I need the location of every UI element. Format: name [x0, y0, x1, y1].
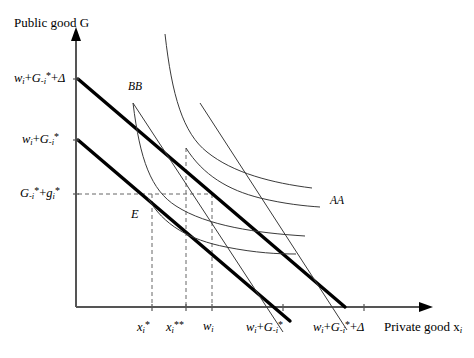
point-label-E: E: [131, 208, 139, 221]
ytick-label-3: G-i*+gi*: [20, 186, 60, 201]
guide-lines-group: [78, 148, 212, 307]
curve-BB-lower-arc: [186, 148, 320, 207]
expansion-line-left: [133, 103, 283, 332]
axis-group: [71, 27, 433, 312]
economics-diagram: Public good G Private good xi wi+G-i*+Δ …: [0, 0, 474, 358]
curve-AA: [133, 103, 305, 236]
y-axis-title: Public good G: [14, 16, 89, 29]
x-axis-title: Private good xi: [384, 320, 462, 335]
ytick-label-1: wi+G-i*+Δ: [14, 71, 65, 86]
expansion-line-right: [200, 103, 347, 330]
y-axis-title-text: Public good G: [14, 15, 89, 30]
xtick-label-5: wi+G-i*+Δ: [313, 320, 364, 335]
xtick-label-4: wi+G-i*: [246, 320, 283, 335]
xtick-label-3: wi: [203, 320, 214, 334]
budget-lines-group: [78, 79, 345, 321]
xtick-label-2: xi**: [166, 320, 184, 335]
x-axis-title-sub: i: [460, 325, 462, 335]
x-axis-title-text: Private good x: [384, 319, 460, 334]
diagram-canvas: [0, 0, 474, 358]
x-axis-arrow-icon: [419, 302, 433, 312]
xtick-label-1: xi*: [137, 320, 150, 335]
curve-BB: [165, 34, 312, 188]
curve-label-AA: AA: [330, 195, 344, 207]
ytick-label-2: wi+G-i*: [22, 132, 59, 147]
curve-label-BB: BB: [128, 81, 142, 93]
